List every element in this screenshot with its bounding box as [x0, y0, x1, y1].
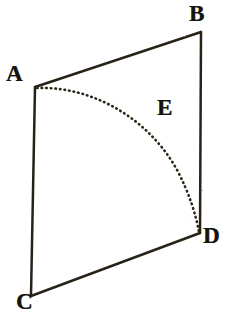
- figure-canvas: [0, 0, 227, 316]
- edge-c-a: [31, 87, 35, 296]
- vertex-label-b: B: [189, 2, 204, 25]
- arc-label-e: E: [157, 96, 172, 119]
- edge-a-b: [35, 32, 201, 87]
- edge-b-d: [200, 32, 201, 233]
- geometry-figure: A B C D E: [0, 0, 227, 316]
- dotted-arc-a-e-d: [37, 88, 199, 232]
- edge-d-c: [31, 233, 200, 296]
- vertex-label-d: D: [203, 224, 220, 247]
- vertex-label-a: A: [6, 62, 23, 85]
- vertex-label-c: C: [16, 290, 33, 313]
